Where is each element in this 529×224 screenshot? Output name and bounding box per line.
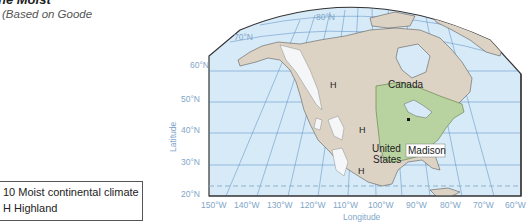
madison-marker xyxy=(407,118,410,121)
lon-tick-130: 130°W xyxy=(267,200,293,210)
lat-tick-40: 40°N xyxy=(181,125,200,135)
lon-tick-70: 70°W xyxy=(473,200,494,210)
lon-tick-60: 60°W xyxy=(505,200,526,210)
legend-item-highland: H Highland xyxy=(0,200,142,216)
legend-box: 10 Moist continental climate H Highland xyxy=(0,181,143,221)
lon-tick-110: 110°W xyxy=(333,200,358,210)
lat-tick-70: 70°N xyxy=(234,32,253,42)
label-highland-1: H xyxy=(330,80,337,90)
x-axis-label: Longitude xyxy=(343,212,381,222)
lon-tick-100: 100°W xyxy=(368,200,394,210)
label-united: United xyxy=(372,143,401,154)
lon-tick-150: 150°W xyxy=(201,200,227,210)
lat-tick-30: 30°N xyxy=(181,157,200,167)
label-madison: Madison xyxy=(408,145,446,156)
lon-tick-90: 90°W xyxy=(406,200,427,210)
label-highland-3: H xyxy=(358,166,365,176)
legend-item-moist-continental: 10 Moist continental climate xyxy=(0,184,142,200)
y-axis-label: Latitude xyxy=(168,121,178,152)
lat-tick-60: 60°N xyxy=(190,60,209,70)
label-canada: Canada xyxy=(388,79,423,90)
lon-tick-120: 120°W xyxy=(300,200,326,210)
label-highland-2: H xyxy=(359,125,366,135)
lon-tick-80: 80°W xyxy=(440,200,461,210)
lat-tick-50: 50°N xyxy=(181,94,200,104)
lat-tick-80: 80°N xyxy=(316,12,335,22)
label-states: States xyxy=(373,154,401,165)
lon-tick-140: 140°W xyxy=(234,200,260,210)
lat-tick-20: 20°N xyxy=(181,189,200,199)
